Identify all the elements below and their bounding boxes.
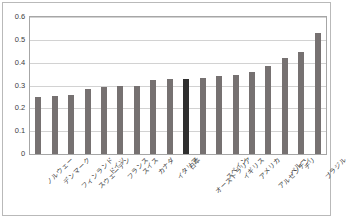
chart-container: 0.60.50.40.30.20.10 ノルウェーデンマークフィンランドスウェー… <box>2 2 331 216</box>
x-axis-label-slot: 日本 <box>177 156 193 214</box>
bar-slot <box>162 17 178 154</box>
bar-slot <box>46 17 62 154</box>
bar[interactable] <box>35 97 41 154</box>
x-axis-label-slot: ノルウェー <box>29 156 45 214</box>
bar-highlighted[interactable] <box>183 79 189 154</box>
bar[interactable] <box>298 52 304 154</box>
y-axis-tick-label: 0 <box>21 150 25 158</box>
bar[interactable] <box>167 79 173 154</box>
bar[interactable] <box>315 33 321 154</box>
bar[interactable] <box>52 96 58 154</box>
y-axis-tick-label: 0.3 <box>15 82 25 90</box>
bar[interactable] <box>68 95 74 154</box>
plot-area <box>29 16 327 155</box>
x-axis-label-slot: チリ <box>292 156 308 214</box>
bar-slot <box>129 17 145 154</box>
bar-slot <box>227 17 243 154</box>
bar[interactable] <box>216 76 222 154</box>
x-axis-label-slot: フィンランド <box>62 156 78 214</box>
x-axis-label-slot: フランス <box>111 156 127 214</box>
bar-slot <box>145 17 161 154</box>
bar-slot <box>260 17 276 154</box>
bar-slot <box>79 17 95 154</box>
x-axis-label-slot: ドイツ <box>95 156 111 214</box>
x-axis-label-slot: イギリス <box>226 156 242 214</box>
x-axis-label-slot: イタリア <box>161 156 177 214</box>
bar[interactable] <box>134 86 140 154</box>
y-axis-tick-label: 0.1 <box>15 127 25 135</box>
bar-slot <box>310 17 326 154</box>
y-axis-tick-label: 0.4 <box>15 59 25 67</box>
bar-series <box>30 17 326 154</box>
x-axis-label-slot: スウェーデン <box>78 156 94 214</box>
y-axis-tick-label: 0.2 <box>15 105 25 113</box>
x-axis-tick-label: ブラジル <box>324 157 348 181</box>
x-axis-label-slot: オーストラリア <box>193 156 209 214</box>
bar-slot <box>277 17 293 154</box>
bar-slot <box>211 17 227 154</box>
x-axis-label-slot: アルゼンチン <box>259 156 275 214</box>
bar-slot <box>244 17 260 154</box>
bar[interactable] <box>282 58 288 154</box>
bar[interactable] <box>85 89 91 154</box>
x-axis-label-slot: スイス <box>128 156 144 214</box>
x-axis-label-slot: ブラジル <box>309 156 325 214</box>
y-axis-tick-label: 0.6 <box>15 13 25 21</box>
bar[interactable] <box>265 66 271 154</box>
x-axis-label-slot: デンマーク <box>45 156 61 214</box>
bar-slot <box>293 17 309 154</box>
bar[interactable] <box>233 75 239 154</box>
bar[interactable] <box>200 78 206 154</box>
x-axis-labels: ノルウェーデンマークフィンランドスウェーデンドイツフランススイスカナダイタリア日… <box>29 156 327 214</box>
y-axis-tick-label: 0.5 <box>15 36 25 44</box>
bar-slot <box>96 17 112 154</box>
x-axis-label-slot: スペイン <box>210 156 226 214</box>
bar[interactable] <box>117 86 123 154</box>
y-axis: 0.60.50.40.30.20.10 <box>3 16 28 155</box>
bar-slot <box>63 17 79 154</box>
bar[interactable] <box>150 80 156 154</box>
x-axis-label-slot: ペルー <box>276 156 292 214</box>
bar[interactable] <box>249 72 255 154</box>
bar-slot <box>194 17 210 154</box>
x-axis-label-slot: アメリカ <box>243 156 259 214</box>
bar-slot <box>30 17 46 154</box>
bar-slot <box>112 17 128 154</box>
x-axis-label-slot: カナダ <box>144 156 160 214</box>
bar[interactable] <box>101 87 107 154</box>
bar-slot <box>178 17 194 154</box>
